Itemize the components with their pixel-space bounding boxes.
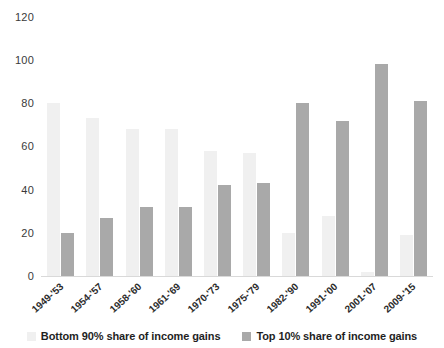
- y-axis-tick: 80: [21, 98, 34, 109]
- bar-top10: [296, 103, 309, 276]
- legend-swatch-icon: [242, 332, 251, 341]
- bar-group: [41, 17, 80, 276]
- bar-group: [237, 17, 276, 276]
- bar-top10: [218, 185, 231, 276]
- y-axis-tick: 60: [21, 141, 34, 152]
- bar-group: [355, 17, 394, 276]
- bar-bottom90: [165, 129, 178, 276]
- bar-bottom90: [400, 235, 413, 276]
- bar-group: [394, 17, 433, 276]
- legend-item[interactable]: Top 10% share of income gains: [242, 330, 417, 342]
- bar-group: [315, 17, 354, 276]
- bar-bottom90: [282, 233, 295, 276]
- bar-group: [198, 17, 237, 276]
- bar-bottom90: [47, 103, 60, 276]
- x-axis-labels: 1949-'531954-'571958-'601961-'691970-'73…: [41, 277, 433, 329]
- plot-area: [41, 17, 433, 276]
- bar-top10: [336, 121, 349, 276]
- bar-chart: 120 100 80 60 40 20 0 1949-'531954-'5719…: [0, 0, 444, 348]
- y-axis-tick: 0: [28, 271, 34, 282]
- bar-group: [119, 17, 158, 276]
- bar-group: [159, 17, 198, 276]
- bar-top10: [414, 101, 427, 276]
- y-axis-tick: 100: [15, 55, 34, 66]
- y-axis-tick: 40: [21, 185, 34, 196]
- x-axis-label-cell: 2009-'15: [394, 277, 433, 329]
- bar-group: [276, 17, 315, 276]
- y-axis-tick: 20: [21, 228, 34, 239]
- bar-group: [80, 17, 119, 276]
- y-axis-tick: 120: [15, 12, 34, 23]
- bar-bottom90: [86, 118, 99, 276]
- y-axis: 120 100 80 60 40 20 0: [0, 0, 41, 348]
- bar-top10: [375, 64, 388, 276]
- chart-legend: Bottom 90% share of income gainsTop 10% …: [0, 330, 444, 342]
- bar-top10: [179, 207, 192, 276]
- bar-bottom90: [361, 272, 374, 276]
- bar-top10: [140, 207, 153, 276]
- bar-top10: [257, 183, 270, 276]
- legend-label: Top 10% share of income gains: [256, 330, 417, 342]
- legend-item[interactable]: Bottom 90% share of income gains: [27, 330, 221, 342]
- legend-swatch-icon: [27, 332, 36, 341]
- legend-label: Bottom 90% share of income gains: [41, 330, 221, 342]
- bar-bottom90: [126, 129, 139, 276]
